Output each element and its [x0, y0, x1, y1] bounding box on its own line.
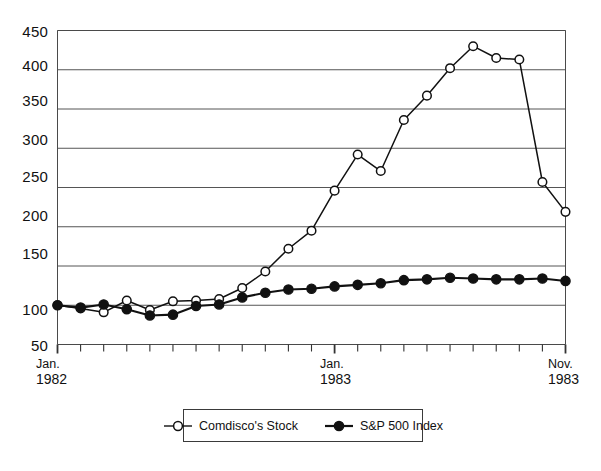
data-point — [422, 275, 431, 284]
series-line — [58, 46, 566, 312]
data-point — [215, 300, 224, 309]
data-point — [469, 274, 478, 283]
data-point — [561, 208, 570, 217]
chart-legend: Comdisco's Stock S&P 500 Index — [183, 409, 423, 442]
series-layer — [53, 42, 570, 320]
y-tick-400: 400 — [0, 57, 48, 75]
data-point — [423, 91, 432, 100]
x-tick-label-nov-1983: Nov. 1983 — [548, 357, 579, 387]
data-point — [538, 274, 547, 283]
y-tick-label: 400 — [22, 57, 48, 74]
data-point — [561, 276, 570, 285]
legend-label: Comdisco's Stock — [199, 419, 298, 433]
data-point — [145, 311, 154, 320]
data-point — [353, 280, 362, 289]
y-tick-label: 100 — [22, 301, 48, 318]
data-point — [538, 178, 547, 187]
y-tick-label: 300 — [22, 131, 48, 148]
y-tick-450: 450 — [0, 23, 48, 41]
x-tick-line2: 1982 — [36, 372, 67, 387]
data-point — [400, 116, 409, 125]
plot-area — [0, 0, 601, 471]
data-point — [492, 275, 501, 284]
data-point — [76, 303, 85, 312]
data-point — [53, 301, 62, 310]
gridlines — [58, 31, 566, 306]
y-tick-100: 100 — [0, 301, 48, 319]
data-point — [399, 276, 408, 285]
data-point — [192, 296, 201, 305]
legend-item-sp500: S&P 500 Index — [324, 419, 443, 433]
y-tick-200: 200 — [0, 207, 48, 225]
data-point — [446, 64, 455, 73]
y-tick-50: 50 — [0, 337, 48, 355]
data-point — [238, 284, 247, 293]
y-tick-label: 200 — [22, 207, 48, 224]
data-point — [99, 300, 108, 309]
data-point — [445, 273, 454, 282]
data-point — [76, 304, 85, 313]
legend-label: S&P 500 Index — [360, 419, 443, 433]
data-point — [307, 284, 316, 293]
plot-frame — [58, 31, 566, 345]
data-point — [261, 288, 270, 297]
data-point — [122, 296, 131, 305]
open-circle-icon — [163, 420, 193, 432]
data-point — [515, 55, 524, 64]
x-tick-line1: Jan. — [320, 357, 344, 371]
y-tick-label: 450 — [22, 23, 48, 40]
data-point — [99, 308, 108, 317]
y-tick-150: 150 — [0, 245, 48, 263]
series-comdisco-stock — [53, 42, 570, 317]
y-tick-label: 50 — [31, 337, 48, 354]
data-point — [330, 282, 339, 291]
y-tick-350: 350 — [0, 92, 48, 110]
data-point — [238, 293, 247, 302]
data-point — [376, 279, 385, 288]
data-point — [376, 167, 385, 176]
data-point — [307, 226, 316, 235]
data-point — [169, 297, 178, 306]
x-tick-label-jan-1982: Jan. 1982 — [36, 357, 67, 387]
y-tick-label: 350 — [22, 92, 48, 109]
chart-container: 450 400 350 300 250 200 150 100 50 Jan. … — [0, 0, 601, 471]
x-tick-line2: 1983 — [320, 372, 351, 387]
data-point — [122, 305, 131, 314]
data-point — [191, 301, 200, 310]
legend-item-comdisco: Comdisco's Stock — [163, 419, 298, 433]
data-point — [146, 306, 155, 315]
data-point — [330, 186, 339, 195]
series-sp500-index — [53, 273, 570, 320]
y-tick-label: 250 — [22, 168, 48, 185]
x-tick-line1: Jan. — [36, 357, 60, 371]
data-point — [469, 42, 478, 51]
y-tick-300: 300 — [0, 131, 48, 149]
y-tick-label: 150 — [22, 245, 48, 262]
data-point — [353, 150, 362, 159]
axis-frame — [58, 31, 566, 345]
y-tick-250: 250 — [0, 168, 48, 186]
data-point — [261, 267, 270, 276]
data-point — [284, 285, 293, 294]
x-tick-label-jan-1983: Jan. 1983 — [320, 357, 351, 387]
data-point — [168, 310, 177, 319]
x-tick-line1: Nov. — [548, 357, 573, 371]
data-point — [53, 301, 62, 310]
data-point — [215, 295, 224, 304]
series-line — [58, 278, 566, 316]
data-point — [515, 275, 524, 284]
data-point — [284, 244, 293, 253]
x-tick-line2: 1983 — [548, 372, 579, 387]
x-axis-ticks — [58, 345, 566, 354]
filled-circle-icon — [324, 420, 354, 432]
data-point — [492, 54, 501, 63]
